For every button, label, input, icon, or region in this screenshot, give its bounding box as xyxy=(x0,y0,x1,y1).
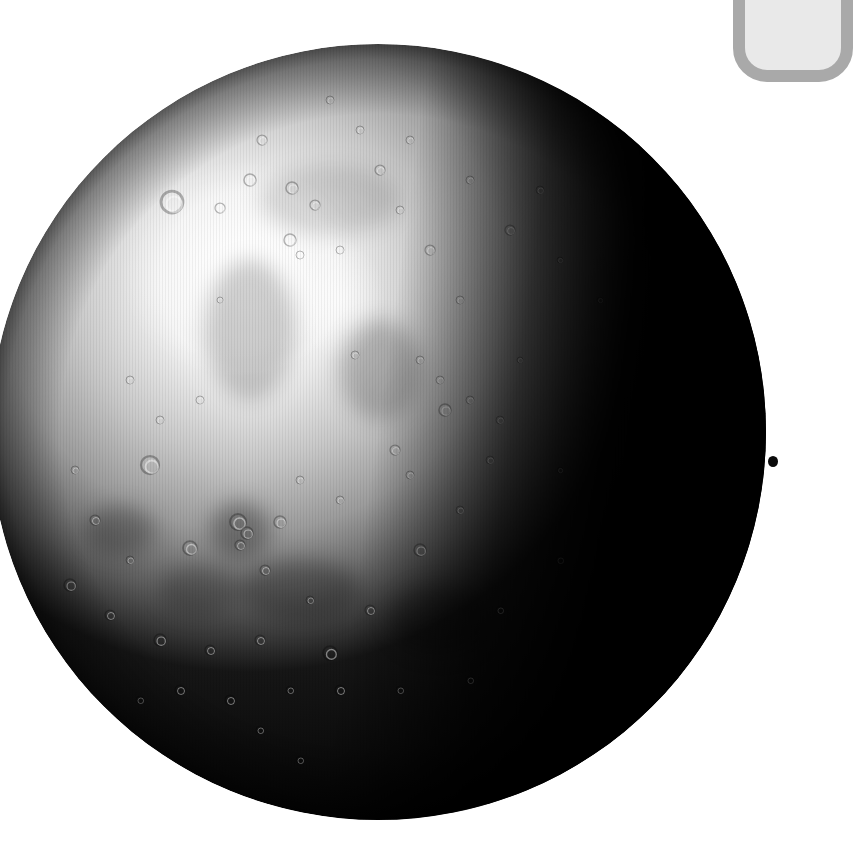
corner-box xyxy=(733,0,853,82)
edge-dot xyxy=(768,456,778,467)
